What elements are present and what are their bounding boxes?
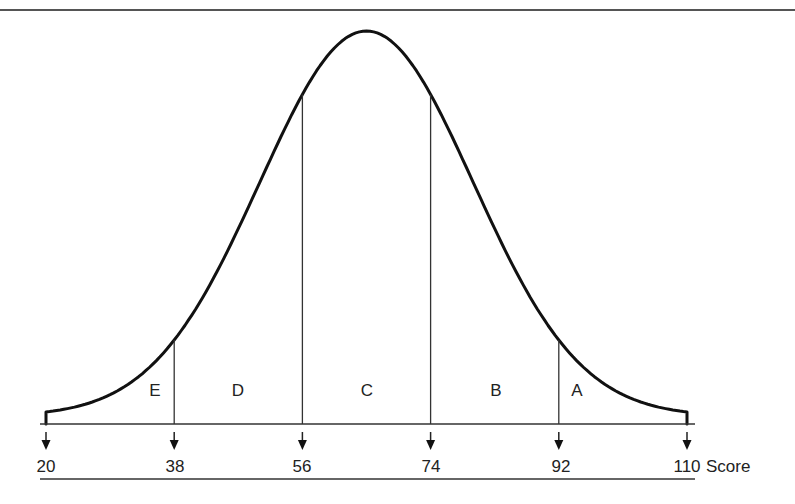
arrow-head-icon xyxy=(554,440,563,450)
region-label-d: D xyxy=(232,381,244,400)
arrow-head-icon xyxy=(426,440,435,450)
normal-distribution-chart: E D C B A 20 38 56 74 92 110 Score xyxy=(0,0,795,504)
tick-label-56: 56 xyxy=(293,457,312,476)
bell-curve xyxy=(46,31,687,424)
region-label-b: B xyxy=(490,381,501,400)
tick-label-110: 110 xyxy=(673,457,700,476)
arrow-head-icon xyxy=(298,440,307,450)
tick-label-20: 20 xyxy=(37,457,56,476)
tick-label-92: 92 xyxy=(552,457,571,476)
axis-unit-label: Score xyxy=(706,457,750,476)
region-label-a: A xyxy=(571,381,583,400)
tick-label-74: 74 xyxy=(422,457,441,476)
arrow-head-icon xyxy=(42,440,51,450)
region-label-e: E xyxy=(149,381,160,400)
arrow-head-icon xyxy=(170,440,179,450)
tick-label-38: 38 xyxy=(166,457,185,476)
region-dividers xyxy=(174,94,559,424)
arrow-head-icon xyxy=(683,440,692,450)
region-label-c: C xyxy=(361,381,373,400)
tick-arrows xyxy=(42,432,692,450)
